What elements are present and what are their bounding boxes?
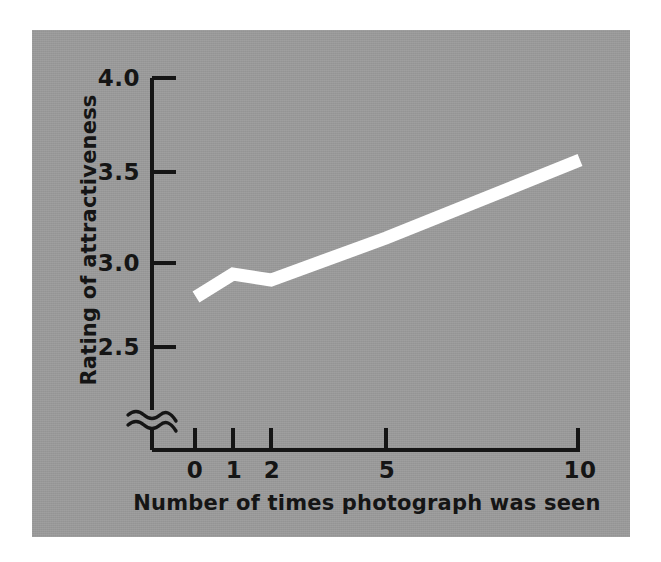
x-axis-title: Number of times photograph was seen <box>133 491 600 515</box>
y-axis-tick-label-2.5: 2.5 <box>98 334 140 360</box>
y-axis-tick-label-3.0: 3.0 <box>98 250 140 276</box>
data-line <box>196 160 580 297</box>
x-axis-tick-label-2: 2 <box>264 457 281 483</box>
line-chart: 4.0 3.5 3.0 2.5 Rating of attractiveness… <box>0 0 661 562</box>
x-axis-tick-label-1: 1 <box>226 457 243 483</box>
y-axis-break-icon <box>128 412 176 432</box>
x-axis-tick-label-0: 0 <box>187 457 204 483</box>
figure-root: 4.0 3.5 3.0 2.5 Rating of attractiveness… <box>0 0 661 562</box>
data-series-rating-of-attractiveness <box>196 160 580 297</box>
x-axis-group: 0 1 2 5 10 Number of times photograph wa… <box>133 428 600 515</box>
y-axis-tick-label-3.5: 3.5 <box>98 159 140 185</box>
y-axis-title: Rating of attractiveness <box>77 94 101 385</box>
y-axis-group: 4.0 3.5 3.0 2.5 Rating of attractiveness <box>77 65 176 450</box>
x-axis-tick-label-5: 5 <box>379 457 396 483</box>
x-axis-tick-label-10: 10 <box>563 457 596 483</box>
y-axis-tick-label-4.0: 4.0 <box>98 65 140 91</box>
